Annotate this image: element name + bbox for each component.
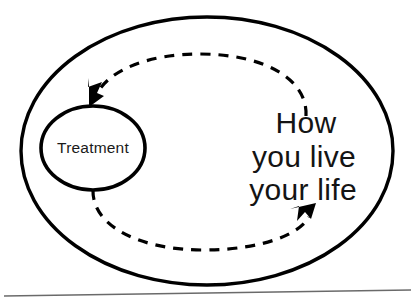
- cycle-diagram: Treatment How you live your life: [0, 0, 414, 302]
- baseline-rule: [4, 290, 411, 296]
- life-text-line-1: How: [276, 106, 337, 139]
- arrow-head-into-treatment-icon: [88, 78, 104, 107]
- life-text-line-3: your life: [249, 173, 357, 206]
- life-text-line-2: you live: [252, 140, 356, 173]
- treatment-label: Treatment: [57, 139, 129, 156]
- diagram-canvas: Treatment How you live your life: [0, 0, 414, 302]
